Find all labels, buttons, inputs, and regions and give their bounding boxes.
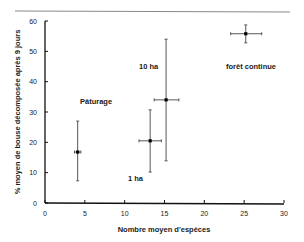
label-10ha: 10 ha <box>139 62 159 71</box>
x-tick-label: 25 <box>240 210 248 217</box>
label-1ha: 1 ha <box>128 174 144 183</box>
label-paturage: Pâturage <box>80 97 112 106</box>
y-tick-label: 20 <box>29 139 37 146</box>
y-tick-label: 10 <box>29 169 37 176</box>
y-tick-label: 0 <box>33 200 37 207</box>
y-tick-label: 30 <box>29 109 37 116</box>
y-tick-label: 60 <box>29 18 37 25</box>
x-axis-label: Nombre moyen d'espèces <box>118 225 211 234</box>
y-axis-label: % moyen de bouse décomposée après 9 jour… <box>13 30 22 195</box>
data-point <box>139 110 161 172</box>
scatter-chart: 0510152025300102030405060 Pâturage 1 ha … <box>0 0 304 242</box>
label-foret-continue: forêt continue <box>226 62 276 71</box>
data-point <box>231 25 262 43</box>
data-point <box>74 121 80 181</box>
top-rule <box>15 11 290 12</box>
x-tick-label: 10 <box>121 210 129 217</box>
y-tick-label: 40 <box>29 78 37 85</box>
axes: 0510152025300102030405060 <box>29 18 288 218</box>
x-tick-label: 5 <box>83 210 87 217</box>
y-tick-label: 50 <box>29 48 37 55</box>
x-tick-label: 30 <box>280 210 288 217</box>
x-tick-label: 20 <box>200 210 208 217</box>
x-tick-label: 15 <box>161 210 169 217</box>
data-point <box>154 39 179 161</box>
x-tick-label: 0 <box>43 210 47 217</box>
